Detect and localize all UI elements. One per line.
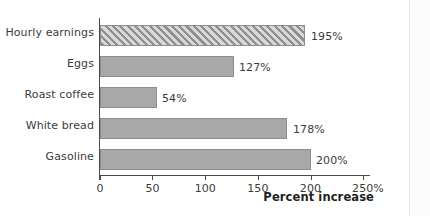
category-label-gasoline: Gasoline: [46, 150, 94, 163]
category-label-roast-coffee: Roast coffee: [25, 88, 94, 101]
bar-chart-figure: Hourly earnings Eggs Roast coffee White …: [0, 0, 430, 216]
x-tick-mark-0: [99, 175, 100, 180]
bar-white-bread[interactable]: [100, 118, 287, 139]
bar-value-eggs: 127%: [239, 60, 271, 73]
bar-roast-coffee[interactable]: [100, 87, 157, 108]
x-axis-title: Percent increase: [263, 190, 374, 204]
page-edge-shade: [410, 0, 430, 216]
x-tick-mark-100: [205, 175, 206, 180]
bar-gasoline[interactable]: [100, 149, 311, 170]
x-tick-label-100: 100: [195, 182, 216, 195]
bar-value-roast-coffee: 54%: [162, 91, 187, 104]
x-axis-line: [99, 175, 370, 176]
x-tick-label-0: 0: [96, 182, 103, 195]
x-tick-mark-50: [152, 175, 153, 180]
bar-value-gasoline: 200%: [316, 153, 348, 166]
bar-hourly-earnings[interactable]: [100, 25, 305, 46]
category-axis-labels: Hourly earnings Eggs Roast coffee White …: [0, 18, 94, 175]
x-tick-mark-250: [363, 175, 364, 180]
category-label-white-bread: White bread: [26, 119, 94, 132]
category-label-hourly-earnings: Hourly earnings: [5, 26, 94, 39]
x-tick-label-50: 50: [145, 182, 159, 195]
bar-value-hourly-earnings: 195%: [311, 29, 343, 42]
bar-value-white-bread: 178%: [293, 122, 325, 135]
x-tick-mark-150: [258, 175, 259, 180]
x-tick-mark-200: [311, 175, 312, 180]
plot-area: 195% 127% 54% 178% 200% 0 50 100 150 200: [100, 18, 375, 175]
bar-eggs[interactable]: [100, 56, 234, 77]
category-label-eggs: Eggs: [67, 57, 94, 70]
